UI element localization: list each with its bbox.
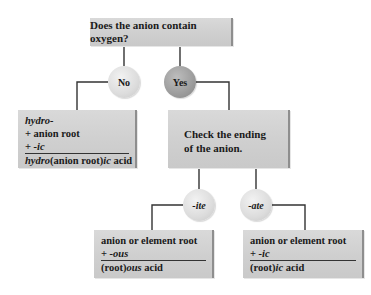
check-ending-line1: Check the ending	[184, 127, 282, 141]
rule-result: (root)ic acid	[250, 261, 356, 274]
rule-result: (root)ous acid	[101, 261, 206, 274]
rule-line-root: anion or element root	[250, 234, 356, 247]
connector-ate-to-box	[272, 205, 305, 230]
ending-ate-circle: -ate	[240, 189, 272, 221]
decision-yes-circle: Yes	[164, 66, 196, 98]
connector-ite-to-box	[152, 205, 183, 230]
decision-no-circle: No	[108, 66, 140, 98]
rule-line-prefix: hydro-	[25, 114, 129, 127]
rule-line-root: + anion root	[25, 127, 129, 140]
ite-rule-box: anion or element root + -ous (root)ous a…	[94, 230, 214, 278]
decision-yes-label: Yes	[173, 77, 187, 88]
rule-line-suffix: + -ic	[250, 247, 356, 261]
rule-line-root: anion or element root	[101, 234, 206, 247]
question-box: Does the anion contain oxygen?	[90, 18, 233, 46]
ending-ate-label: -ate	[248, 200, 264, 211]
question-text: Does the anion contain oxygen?	[90, 19, 231, 45]
no-oxygen-rule-box: hydro- + anion root + -ic hydro(anion ro…	[18, 110, 137, 168]
rule-result: hydro(anion root)ic acid	[25, 154, 129, 167]
rule-line-suffix: + -ous	[101, 247, 206, 261]
ate-rule-box: anion or element root + -ic (root)ic aci…	[243, 230, 364, 278]
decision-no-label: No	[118, 77, 130, 88]
ending-ite-label: -ite	[192, 200, 205, 211]
connector-yes-to-box	[196, 82, 229, 110]
connector-no-to-box	[77, 82, 108, 110]
check-ending-box: Check the ending of the anion.	[168, 110, 290, 168]
rule-line-suffix: + -ic	[25, 140, 129, 154]
check-ending-line2: of the anion.	[184, 141, 282, 155]
acid-naming-flowchart: Does the anion contain oxygen? No Yes hy…	[0, 0, 371, 295]
ending-ite-circle: -ite	[183, 189, 215, 221]
